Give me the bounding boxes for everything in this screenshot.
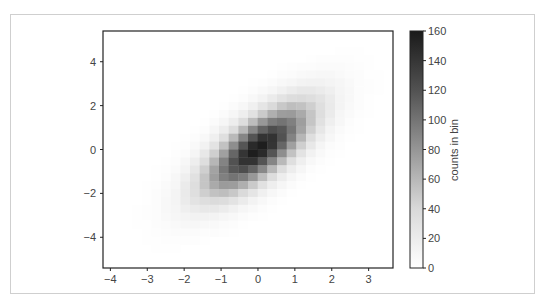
heatmap-cell bbox=[161, 244, 171, 252]
heatmap-cell bbox=[219, 213, 229, 221]
heatmap-cell bbox=[190, 236, 200, 244]
heatmap-cell bbox=[258, 94, 268, 102]
heatmap-cell bbox=[335, 47, 345, 55]
heatmap-cell bbox=[200, 118, 210, 126]
heatmap-cell bbox=[229, 142, 239, 150]
heatmap-cell bbox=[229, 102, 239, 110]
heatmap-cell bbox=[354, 86, 364, 94]
heatmap-cell bbox=[316, 126, 326, 134]
heatmap-cell bbox=[229, 221, 239, 229]
heatmap-cell bbox=[219, 165, 229, 173]
heatmap-cell bbox=[316, 134, 326, 142]
heatmap-cell bbox=[200, 173, 210, 181]
heatmap-cell bbox=[335, 55, 345, 63]
heatmap-cell bbox=[229, 181, 239, 189]
heatmap-cell bbox=[316, 71, 326, 79]
colorbar-tick-label: 160 bbox=[428, 25, 446, 37]
heatmap-cell bbox=[325, 118, 335, 126]
heatmap-cell bbox=[209, 142, 219, 150]
heatmap-cell bbox=[277, 78, 287, 86]
heatmap-cell bbox=[296, 165, 306, 173]
heatmap-cell bbox=[296, 126, 306, 134]
heatmap-cell bbox=[238, 102, 248, 110]
heatmap-cell bbox=[287, 71, 297, 79]
heatmap-cell bbox=[238, 197, 248, 205]
heatmap-cell bbox=[180, 134, 190, 142]
heatmap-cell bbox=[238, 157, 248, 165]
heatmap-cell bbox=[248, 94, 258, 102]
heatmap-cell bbox=[335, 150, 345, 158]
heatmap-cell bbox=[296, 78, 306, 86]
heatmap-cell bbox=[277, 86, 287, 94]
x-tick-label: −3 bbox=[141, 273, 154, 285]
heatmap-cell bbox=[354, 110, 364, 118]
heatmap-cell bbox=[374, 86, 384, 94]
heatmap-cell bbox=[296, 118, 306, 126]
heatmap-cell bbox=[354, 118, 364, 126]
heatmap-cell bbox=[248, 157, 258, 165]
heatmap-cell bbox=[325, 142, 335, 150]
heatmap-cell bbox=[180, 236, 190, 244]
colorbar-tick-label: 0 bbox=[428, 262, 434, 274]
heatmap-cell bbox=[267, 110, 277, 118]
heatmap-cell bbox=[142, 229, 152, 237]
heatmap-cell bbox=[229, 173, 239, 181]
heatmap-cell bbox=[209, 165, 219, 173]
heatmap-cell bbox=[258, 118, 268, 126]
heatmap-cell bbox=[151, 236, 161, 244]
heatmap-cell bbox=[287, 181, 297, 189]
heatmap-cell bbox=[258, 150, 268, 158]
heatmap-cell bbox=[209, 197, 219, 205]
heatmap-cell bbox=[258, 110, 268, 118]
heatmap-cell bbox=[229, 213, 239, 221]
heatmap-cell bbox=[238, 118, 248, 126]
heatmap-cell bbox=[238, 189, 248, 197]
heatmap-cell bbox=[200, 236, 210, 244]
heatmap-cell bbox=[219, 229, 229, 237]
heatmap-cell bbox=[248, 205, 258, 213]
heatmap-cell bbox=[296, 94, 306, 102]
heatmap-cell bbox=[161, 229, 171, 237]
heatmap-cell bbox=[287, 63, 297, 71]
heatmap-cell bbox=[267, 181, 277, 189]
heatmap-cell bbox=[277, 165, 287, 173]
heatmap-cell bbox=[219, 181, 229, 189]
heatmap-cell bbox=[171, 173, 181, 181]
heatmap-cell bbox=[306, 55, 316, 63]
heatmap-cell bbox=[238, 205, 248, 213]
x-tick-label: 0 bbox=[255, 273, 261, 285]
heatmap-cell bbox=[229, 197, 239, 205]
heatmap-cell bbox=[267, 102, 277, 110]
heatmap-cell bbox=[142, 181, 152, 189]
heatmap-cell bbox=[200, 229, 210, 237]
heatmap-cell bbox=[180, 142, 190, 150]
y-tick-label: −2 bbox=[83, 187, 96, 199]
heatmap-cell bbox=[345, 126, 355, 134]
heatmap-cell bbox=[258, 157, 268, 165]
heatmap-cell bbox=[171, 244, 181, 252]
heatmap-cell bbox=[209, 213, 219, 221]
heatmap-cell bbox=[142, 189, 152, 197]
heatmap-cell bbox=[151, 173, 161, 181]
heatmap-cell bbox=[325, 71, 335, 79]
heatmap-cell bbox=[296, 102, 306, 110]
heatmap-cell bbox=[171, 150, 181, 158]
heatmap-cell bbox=[267, 173, 277, 181]
heatmap-cell bbox=[200, 213, 210, 221]
heatmap-cell bbox=[190, 173, 200, 181]
heatmap-cell bbox=[306, 157, 316, 165]
heatmap-cell bbox=[325, 126, 335, 134]
heatmap-cell bbox=[306, 150, 316, 158]
heatmap-cell bbox=[200, 205, 210, 213]
heatmap-cell bbox=[238, 126, 248, 134]
heatmap-cell bbox=[200, 165, 210, 173]
heatmap-cell bbox=[258, 126, 268, 134]
heatmap-cell bbox=[267, 118, 277, 126]
heatmap-cell bbox=[316, 165, 326, 173]
heatmap-cell bbox=[171, 205, 181, 213]
heatmap-cell bbox=[171, 229, 181, 237]
heatmap-cell bbox=[229, 126, 239, 134]
heatmap-cell bbox=[248, 126, 258, 134]
heatmap-cell bbox=[219, 205, 229, 213]
colorbar-tick-label: 40 bbox=[428, 203, 440, 215]
